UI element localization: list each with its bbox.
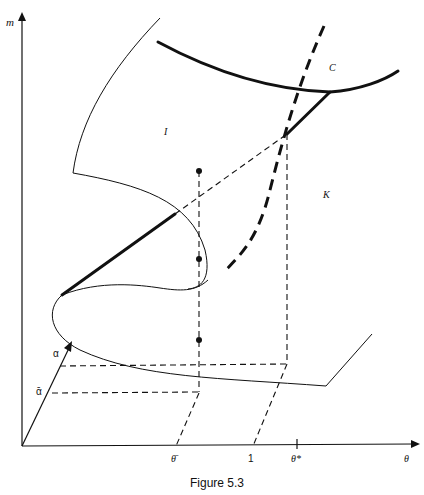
theta-star-tick-label: θ* [291, 453, 301, 464]
projection-alpha [60, 364, 287, 366]
figure-caption: Figure 5.3 [190, 476, 244, 490]
alpha-bar-label: ᾱ [36, 386, 42, 397]
point-middle [196, 256, 202, 262]
axes [18, 12, 420, 449]
alpha-axis [22, 346, 70, 446]
theta-axis-arrowhead-icon [411, 440, 420, 448]
theta-bar-tick-label: θ̄ [171, 453, 179, 464]
theta-axis-label: θ [404, 453, 409, 464]
fold-middle-curve [62, 280, 208, 295]
cusp-surface-diagram: m θ α ᾱ θ̄ 1 θ* C I K Figure 5.3 [0, 0, 424, 495]
region-I-label: I [163, 126, 168, 137]
upper-fold-edge [287, 92, 330, 134]
dashed-bifurcation-curve [224, 26, 324, 272]
thick-curves [62, 26, 398, 295]
projection-diagonal [175, 134, 287, 214]
fold-lower-curve [52, 295, 326, 386]
projection-theta-bar [176, 393, 199, 446]
point-lower [196, 337, 202, 343]
surface-top-left-edge [73, 18, 160, 173]
surface-outline [52, 18, 372, 386]
curve-C-upper [158, 42, 398, 92]
region-C-label: C [329, 62, 336, 73]
lower-fold-edge [62, 214, 175, 295]
m-axis-label: m [6, 16, 14, 28]
surface-bottom-right-edge [326, 334, 372, 386]
projection-one [253, 364, 287, 446]
one-tick-label: 1 [248, 453, 254, 464]
alpha-label: α [53, 348, 59, 359]
projection-lines [52, 134, 287, 446]
projection-alpha-bar [52, 392, 199, 393]
theta-axis [22, 444, 414, 446]
m-axis-arrowhead-icon [18, 12, 26, 21]
region-K-label: K [322, 189, 331, 200]
point-upper [196, 168, 202, 174]
